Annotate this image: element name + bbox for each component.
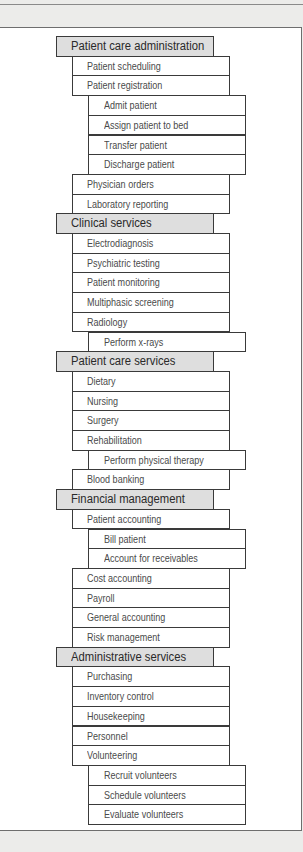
subfunction-box-discharge-patient: Discharge patient (88, 154, 246, 175)
function-box-cost-accounting: Cost accounting (72, 568, 230, 589)
function-box-housekeeping: Housekeeping (72, 706, 230, 727)
function-box-surgery: Surgery (72, 410, 230, 431)
function-box-radiology: Radiology (72, 312, 230, 333)
subfunction-label: Admit patient (104, 96, 157, 115)
function-box-electrodiagnosis: Electrodiagnosis (72, 233, 230, 254)
subfunction-label: Perform x-rays (104, 333, 163, 352)
subfunction-label: Perform physical therapy (104, 451, 204, 470)
subfunction-label: Schedule volunteers (104, 786, 186, 805)
category-label: Clinical services (71, 214, 152, 232)
function-label: Electrodiagnosis (87, 234, 153, 253)
function-label: Psychiatric testing (87, 254, 160, 273)
function-label: Surgery (87, 411, 119, 430)
function-label: Patient registration (87, 76, 162, 95)
subfunction-box-transfer-patient: Transfer patient (88, 135, 246, 156)
function-label: Inventory control (87, 687, 154, 706)
function-box-laboratory-reporting: Laboratory reporting (72, 194, 230, 215)
subfunction-box-perform-x-rays: Perform x-rays (88, 332, 246, 353)
function-label: Volunteering (87, 746, 137, 765)
function-label: Payroll (87, 589, 115, 608)
category-label: Patient care administration (71, 37, 204, 55)
function-box-general-accounting: General accounting (72, 607, 230, 628)
subfunction-label: Evaluate volunteers (104, 805, 183, 824)
category-box-patient-care-administration: Patient care administration (56, 36, 214, 57)
subfunction-label: Discharge patient (104, 155, 174, 174)
subfunction-box-schedule-volunteers: Schedule volunteers (88, 785, 246, 806)
category-label: Financial management (71, 490, 185, 508)
function-box-dietary: Dietary (72, 371, 230, 392)
function-label: Nursing (87, 392, 118, 411)
function-box-blood-banking: Blood banking (72, 469, 230, 490)
function-box-nursing: Nursing (72, 391, 230, 412)
category-box-clinical-services: Clinical services (56, 213, 214, 234)
subfunction-box-assign-patient-to-bed: Assign patient to bed (88, 115, 246, 136)
function-box-physician-orders: Physician orders (72, 174, 230, 195)
category-box-patient-care-services: Patient care services (56, 351, 214, 372)
function-box-psychiatric-testing: Psychiatric testing (72, 253, 230, 274)
subfunction-label: Assign patient to bed (104, 116, 188, 135)
function-box-patient-registration: Patient registration (72, 75, 230, 96)
subfunction-box-bill-patient: Bill patient (88, 529, 246, 550)
subfunction-label: Recruit volunteers (104, 766, 177, 785)
top-rule (0, 4, 303, 5)
subfunction-box-admit-patient: Admit patient (88, 95, 246, 116)
function-label: General accounting (87, 608, 165, 627)
function-label: Radiology (87, 313, 127, 332)
function-box-patient-monitoring: Patient monitoring (72, 272, 230, 293)
function-box-volunteering: Volunteering (72, 745, 230, 766)
function-label: Rehabilitation (87, 431, 142, 450)
function-label: Patient accounting (87, 510, 161, 529)
function-label: Personnel (87, 727, 128, 746)
function-box-patient-accounting: Patient accounting (72, 509, 230, 530)
category-label: Administrative services (71, 648, 186, 666)
function-box-purchasing: Purchasing (72, 666, 230, 687)
function-label: Multiphasic screening (87, 293, 174, 312)
function-box-inventory-control: Inventory control (72, 686, 230, 707)
subfunction-label: Account for receivables (104, 549, 198, 568)
subfunction-label: Bill patient (104, 530, 146, 549)
function-box-risk-management: Risk management (72, 627, 230, 648)
subfunction-box-evaluate-volunteers: Evaluate volunteers (88, 804, 246, 825)
function-box-patient-scheduling: Patient scheduling (72, 56, 230, 77)
function-label: Blood banking (87, 470, 144, 489)
category-box-financial-management: Financial management (56, 489, 214, 510)
subfunction-box-recruit-volunteers: Recruit volunteers (88, 765, 246, 786)
subfunction-box-perform-physical-therapy: Perform physical therapy (88, 450, 246, 471)
function-box-payroll: Payroll (72, 588, 230, 609)
function-label: Laboratory reporting (87, 195, 168, 214)
subfunction-box-account-for-receivables: Account for receivables (88, 548, 246, 569)
function-label: Patient monitoring (87, 273, 160, 292)
function-label: Dietary (87, 372, 116, 391)
function-label: Physician orders (87, 175, 154, 194)
function-box-personnel: Personnel (72, 726, 230, 747)
function-label: Cost accounting (87, 569, 152, 588)
category-label: Patient care services (71, 352, 175, 370)
subfunction-label: Transfer patient (104, 136, 167, 155)
function-box-multiphasic-screening: Multiphasic screening (72, 292, 230, 313)
function-label: Patient scheduling (87, 57, 161, 76)
function-box-rehabilitation: Rehabilitation (72, 430, 230, 451)
category-box-administrative-services: Administrative services (56, 647, 214, 668)
function-label: Risk management (87, 628, 160, 647)
function-label: Housekeeping (87, 707, 145, 726)
function-label: Purchasing (87, 667, 132, 686)
